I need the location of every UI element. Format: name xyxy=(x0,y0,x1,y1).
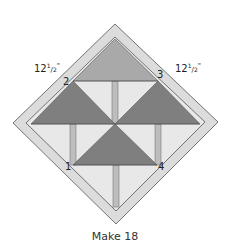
trunk-left xyxy=(70,124,76,165)
corner-number-2: 2 xyxy=(63,76,69,87)
corner-number-1: 1 xyxy=(65,161,71,172)
trunk-top xyxy=(112,81,118,124)
trunk-bottom xyxy=(113,165,119,207)
corner-number-3: 3 xyxy=(157,69,163,80)
dimension-label-right: 121/2" xyxy=(175,62,201,74)
trunk-right xyxy=(155,124,161,165)
dimension-label-left: 121/2" xyxy=(34,62,60,74)
corner-number-4: 4 xyxy=(158,161,164,172)
caption: Make 18 xyxy=(0,230,230,243)
quilt-block-diagram: 121/2" 121/2" 2 3 1 4 xyxy=(0,0,230,247)
